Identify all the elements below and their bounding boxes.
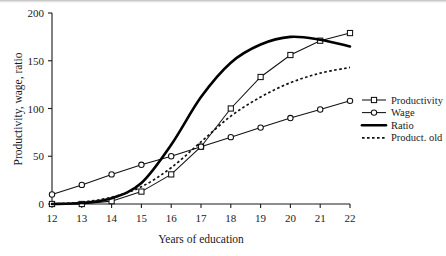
- legend-label: Productivity: [391, 95, 444, 106]
- data-point-marker: [288, 52, 293, 57]
- x-tick-label: 20: [285, 212, 297, 224]
- data-point-marker: [347, 30, 352, 35]
- x-tick-label: 13: [76, 212, 88, 224]
- series-wage: [49, 98, 352, 197]
- x-axis-ticks: [52, 204, 350, 208]
- x-tick-label: 22: [345, 212, 356, 224]
- data-point-marker: [347, 98, 352, 103]
- legend-marker: [371, 110, 376, 115]
- y-axis-ticks: [48, 13, 52, 204]
- chart-svg: 050100150200 1213141516171819202122 Prod…: [0, 0, 446, 256]
- data-point-marker: [49, 192, 54, 197]
- line-chart: 050100150200 1213141516171819202122 Prod…: [0, 0, 446, 256]
- series-product-old: [52, 67, 350, 204]
- chart-legend: ProductivityWageRatioProduct. old: [362, 95, 444, 144]
- legend-marker: [371, 97, 376, 102]
- x-tick-label: 18: [225, 212, 237, 224]
- legend-item-product-old: Product. old: [362, 132, 443, 143]
- y-tick-label: 100: [28, 103, 45, 115]
- y-axis-tick-labels: 050100150200: [28, 7, 45, 210]
- data-point-marker: [79, 182, 84, 187]
- data-point-marker: [288, 115, 293, 120]
- series-path: [52, 67, 350, 204]
- data-point-marker: [109, 172, 114, 177]
- y-tick-label: 0: [39, 198, 45, 210]
- data-point-marker: [318, 107, 323, 112]
- x-tick-label: 21: [315, 212, 326, 224]
- data-point-marker: [169, 172, 174, 177]
- legend-item-productivity: Productivity: [362, 95, 444, 106]
- series-path: [52, 33, 350, 204]
- y-axis-title: Productivity, wage, ratio: [12, 52, 25, 165]
- series-layer: [49, 30, 352, 206]
- y-tick-label: 50: [33, 150, 45, 162]
- legend-item-ratio: Ratio: [362, 120, 414, 131]
- y-tick-label: 150: [28, 55, 45, 67]
- series-ratio: [52, 37, 350, 204]
- y-tick-label: 200: [28, 7, 45, 19]
- x-tick-label: 19: [255, 212, 267, 224]
- x-tick-label: 12: [47, 212, 58, 224]
- legend-label: Wage: [391, 107, 415, 118]
- data-point-marker: [198, 144, 203, 149]
- x-tick-label: 17: [196, 212, 208, 224]
- x-tick-label: 16: [166, 212, 178, 224]
- x-axis-title: Years of education: [158, 233, 244, 245]
- data-point-marker: [139, 189, 144, 194]
- legend-label: Product. old: [391, 132, 443, 143]
- data-point-marker: [228, 134, 233, 139]
- data-point-marker: [258, 74, 263, 79]
- legend-label: Ratio: [391, 120, 414, 131]
- data-point-marker: [228, 106, 233, 111]
- data-point-marker: [139, 162, 144, 167]
- x-axis-tick-labels: 1213141516171819202122: [47, 212, 356, 224]
- x-tick-label: 14: [106, 212, 118, 224]
- x-tick-label: 15: [136, 212, 148, 224]
- legend-item-wage: Wage: [362, 107, 415, 118]
- series-path: [52, 37, 350, 204]
- data-point-marker: [258, 125, 263, 130]
- data-point-marker: [169, 154, 174, 159]
